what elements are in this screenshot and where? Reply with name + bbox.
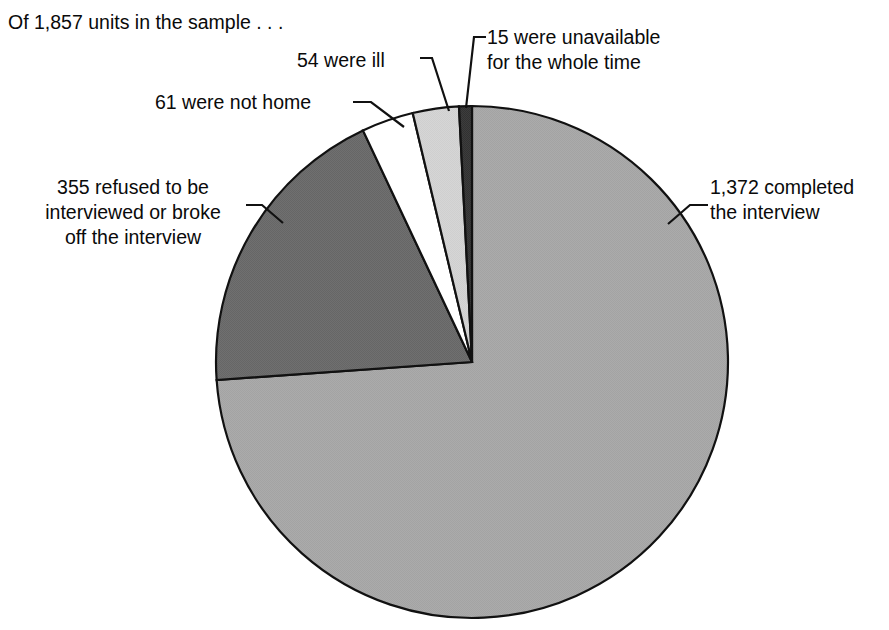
pie-label-unavailable-line2: for the whole time — [487, 51, 641, 73]
figure-caption: Of 1,857 units in the sample . . . — [8, 10, 283, 35]
pie-label-refused-line2: interviewed or broke — [45, 201, 221, 223]
pie-label-unavailable: 15 were unavailablefor the whole time — [487, 25, 660, 75]
pie-label-not-home: 61 were not home — [155, 90, 311, 115]
pie-label-refused-line1: 355 refused to be — [57, 176, 209, 198]
leader-line-ill — [420, 58, 449, 111]
leader-line-unavailable — [466, 37, 486, 108]
pie-label-refused-line3: off the interview — [65, 226, 201, 248]
pie-label-completed-line1: 1,372 completed — [710, 176, 854, 198]
pie-label-refused: 355 refused to beinterviewed or brokeoff… — [18, 175, 248, 250]
pie-label-not-home-text: 61 were not home — [155, 91, 311, 113]
pie-chart-svg — [0, 0, 889, 630]
pie-label-ill-text: 54 were ill — [297, 49, 385, 71]
pie-chart-figure: Of 1,857 units in the sample . . . 54 we… — [0, 0, 889, 630]
pie-label-ill: 54 were ill — [297, 48, 385, 73]
pie-label-unavailable-line1: 15 were unavailable — [487, 26, 660, 48]
pie-label-completed: 1,372 completedthe interview — [710, 175, 854, 225]
pie-label-completed-line2: the interview — [710, 201, 819, 223]
